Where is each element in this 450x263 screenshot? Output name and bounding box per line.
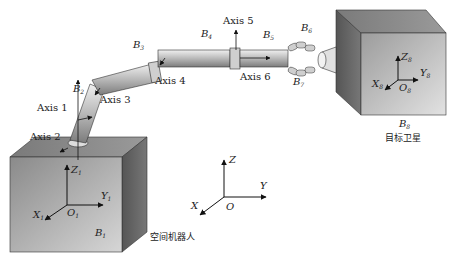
svg-text:B5: B5 [262, 29, 274, 41]
svg-text:B3: B3 [132, 39, 144, 51]
inertial-coordinate-frame: Z Y X O [190, 154, 268, 215]
target-satellite-caption: 目标卫星 [385, 132, 421, 143]
gripper [287, 42, 315, 76]
axis-1-label: Axis 1 [36, 102, 68, 113]
target-satellite-cube [318, 10, 446, 115]
svg-text:Z: Z [228, 154, 237, 165]
svg-text:B2: B2 [72, 83, 84, 95]
svg-text:X: X [190, 200, 199, 211]
link-b4 [158, 50, 230, 67]
svg-text:O: O [226, 201, 234, 212]
svg-text:B4: B4 [200, 28, 212, 40]
axis-3-label: Axis 3 [99, 94, 131, 105]
svg-text:B6: B6 [300, 22, 312, 34]
space-robot-base-cube [10, 137, 147, 252]
svg-text:Y: Y [260, 180, 268, 191]
axis-6-label: Axis 6 [239, 71, 271, 82]
svg-text:B7: B7 [292, 76, 304, 88]
link-b5 [240, 50, 288, 67]
b8-label: B8 [398, 118, 410, 130]
axis-4-label: Axis 4 [154, 75, 186, 86]
space-robot-diagram: Z1 Y1 X1 O1 B1 空间机器人 [0, 0, 450, 263]
axis-2-label: Axis 2 [29, 131, 61, 142]
link-b3 [92, 64, 156, 95]
space-robot-caption: 空间机器人 [150, 231, 195, 242]
axis-5-label: Axis 5 [222, 15, 254, 26]
